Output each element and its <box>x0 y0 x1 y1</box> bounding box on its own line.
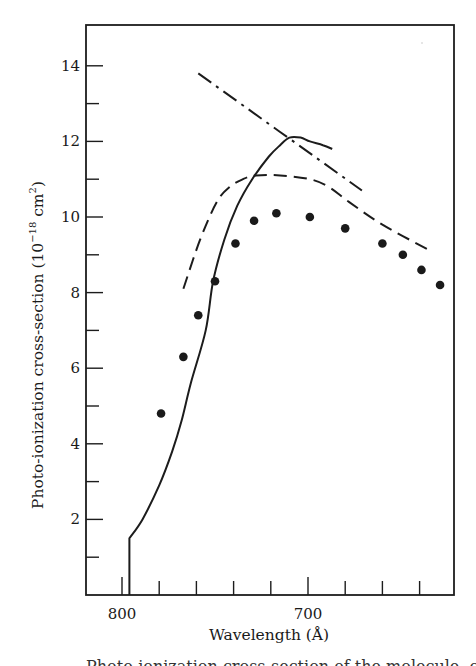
speck <box>421 42 422 43</box>
y-tick-label: 6 <box>70 359 80 377</box>
data-point <box>194 311 203 320</box>
x-axis-title: Wavelength (Å) <box>209 626 329 644</box>
series-dashed-curve <box>183 175 430 289</box>
caption-text: Photo-ionization cross-section of the mo… <box>86 656 476 666</box>
x-tick-label: 700 <box>294 605 323 623</box>
y-tick-label: 10 <box>61 208 80 226</box>
data-series <box>129 73 444 595</box>
series-dash-dot-line <box>198 73 362 190</box>
data-point <box>436 281 445 290</box>
y-axis-title-main: Photo-ionization cross-section (10 <box>29 243 47 509</box>
y-axis-ticks <box>86 66 103 557</box>
data-point <box>157 409 166 418</box>
data-point <box>272 209 281 218</box>
data-point <box>399 251 408 260</box>
x-axis-ticks <box>122 577 420 595</box>
y-axis-title: Photo-ionization cross-section (10−18 cm… <box>27 181 47 509</box>
y-axis-title-close: ) <box>29 181 47 187</box>
data-point <box>306 213 315 222</box>
x-tick-label: 800 <box>108 605 137 623</box>
y-tick-label: 14 <box>61 57 80 75</box>
x-axis-tick-labels: 800700 <box>108 605 323 623</box>
series-solid-curve <box>129 137 332 595</box>
plot-border <box>86 25 454 595</box>
y-axis-title-unit: cm <box>29 193 47 222</box>
data-point <box>417 266 426 275</box>
y-tick-label: 12 <box>61 132 80 150</box>
data-point <box>341 224 350 233</box>
data-point <box>231 239 240 248</box>
y-axis-title-exponent: −18 <box>27 222 38 243</box>
data-point <box>378 239 387 248</box>
y-tick-label: 2 <box>70 510 80 528</box>
y-axis-tick-labels: 2468101214 <box>61 57 80 529</box>
plot-frame <box>86 25 454 595</box>
figure-caption-partial: Photo-ionization cross-section of the mo… <box>86 656 476 666</box>
data-point <box>179 353 188 362</box>
y-tick-label: 8 <box>70 284 80 302</box>
data-point <box>250 216 259 225</box>
y-tick-label: 4 <box>70 435 80 453</box>
chart: 800700 2468101214 Wavelength (Å) Photo-i… <box>0 0 476 666</box>
